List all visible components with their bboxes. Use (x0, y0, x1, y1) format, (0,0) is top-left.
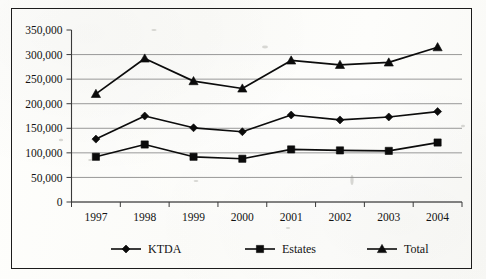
y-tick-label: 100,000 (25, 147, 63, 160)
y-tick-label: 350,000 (25, 24, 63, 37)
data-point-total-1998[interactable] (140, 54, 149, 62)
data-point-ktda-2001[interactable] (287, 111, 295, 119)
scan-speckle (286, 227, 290, 229)
legend-label-ktda: KTDA (148, 242, 182, 256)
data-point-ktda-2002[interactable] (336, 116, 344, 124)
scan-speckle (350, 175, 353, 185)
data-point-estates-2004[interactable] (434, 139, 441, 146)
line-chart: 350,000300,000250,000200,000150,000100,0… (0, 0, 486, 279)
data-point-ktda-2004[interactable] (434, 108, 442, 116)
x-tick-label: 1997 (84, 211, 107, 223)
chart-canvas: 350,000300,000250,000200,000150,000100,0… (0, 0, 486, 279)
y-tick-label: 150,000 (25, 122, 63, 135)
x-tick-label: 2001 (280, 211, 303, 223)
x-tick-label: 1999 (182, 211, 205, 223)
data-point-estates-2002[interactable] (336, 147, 343, 154)
scan-speckle (88, 159, 92, 161)
data-point-estates-2001[interactable] (288, 146, 295, 153)
legend-label-total: Total (404, 242, 429, 256)
data-point-ktda-1999[interactable] (190, 124, 198, 132)
data-point-estates-2003[interactable] (385, 147, 392, 154)
data-point-ktda-1997[interactable] (92, 135, 100, 143)
scan-speckle (194, 180, 199, 182)
x-tick-label: 1998 (133, 211, 156, 223)
y-tick-label: 250,000 (25, 73, 63, 86)
legend-diamond-marker-icon (122, 245, 130, 253)
scan-speckle (262, 46, 268, 49)
y-tick-label: 300,000 (25, 49, 63, 62)
x-tick-label: 2003 (377, 211, 400, 223)
legend-label-estates: Estates (282, 242, 316, 256)
data-point-ktda-1998[interactable] (141, 112, 149, 120)
data-point-estates-1999[interactable] (190, 153, 197, 160)
data-point-total-2004[interactable] (433, 43, 442, 51)
x-tick-label: 2002 (328, 211, 351, 223)
data-point-estates-1998[interactable] (141, 141, 148, 148)
scan-speckle (461, 125, 465, 127)
data-point-ktda-2000[interactable] (238, 128, 246, 136)
x-tick-label: 2004 (426, 211, 449, 223)
legend-square-marker-icon (256, 245, 263, 252)
data-point-total-1999[interactable] (189, 77, 198, 85)
data-point-estates-1997[interactable] (92, 153, 99, 160)
scan-speckle (151, 29, 156, 31)
scan-speckle (59, 139, 63, 141)
y-tick-label: 0 (57, 196, 63, 208)
x-tick-label: 2000 (231, 211, 254, 223)
data-point-estates-2000[interactable] (239, 155, 246, 162)
y-tick-label: 50,000 (31, 172, 63, 185)
data-point-ktda-2003[interactable] (385, 113, 393, 121)
y-tick-label: 200,000 (25, 98, 63, 111)
